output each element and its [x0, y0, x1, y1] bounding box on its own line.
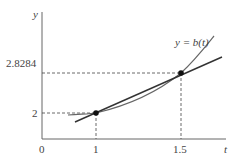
x-tick-1.5: 1.5: [173, 143, 187, 155]
y-tick-2.8284: 2.8284: [6, 57, 37, 69]
curve-label: y = b(t): [174, 36, 209, 49]
point-1: [93, 110, 99, 116]
y-tick-2: 2: [32, 107, 38, 119]
y-axis-label: y: [32, 8, 38, 20]
x-tick-1: 1: [93, 143, 99, 155]
point-2: [178, 70, 184, 76]
origin-label: 0: [39, 143, 45, 155]
x-axis-label: t: [224, 143, 228, 155]
chart: y 2.8284 2 0 1 1.5 t y = b(t): [0, 0, 252, 164]
